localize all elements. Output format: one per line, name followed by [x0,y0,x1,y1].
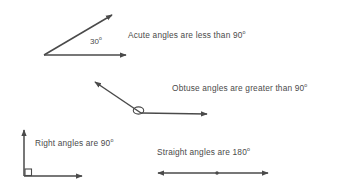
degree-symbol-icon: o [110,137,113,143]
straight-angle-description: Straight angles are 180o [157,148,250,156]
straight-angle-vertex-point [215,171,218,174]
degree-symbol-icon: o [99,35,102,41]
straight-angle-description-text: Straight angles are 180 [157,147,247,157]
angles-diagram-canvas: 30o Acute angles are less than 90o Obtus… [0,0,349,191]
degree-symbol-icon: o [243,29,246,35]
obtuse-angle-description-text: Obtuse angles are greater than 90 [172,83,304,93]
degree-symbol-icon: o [247,146,250,152]
acute-angle-figure [44,15,126,55]
right-angle-description-text: Right angles are 90 [35,138,110,148]
acute-angle-measure-value: 30 [90,37,99,46]
right-angle-description: Right angles are 90o [35,139,114,147]
obtuse-angle-description: Obtuse angles are greater than 90o [172,84,308,92]
right-angle-square-marker [25,169,32,176]
straight-angle-figure [158,171,268,174]
degree-symbol-icon: o [304,82,307,88]
angles-diagram-svg [0,0,349,191]
right-angle-figure [24,130,82,176]
acute-angle-measure-label: 30o [90,38,102,46]
acute-angle-description: Acute angles are less than 90o [128,31,246,39]
obtuse-angle-horizontal-ray [141,113,207,114]
acute-angle-description-text: Acute angles are less than 90 [128,30,243,40]
